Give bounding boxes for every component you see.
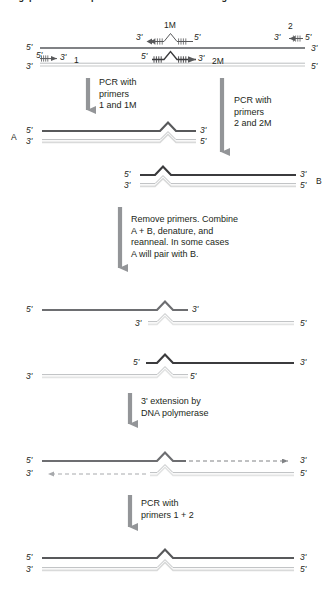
heteroduplex-1-bottom-strand [148, 314, 294, 325]
primer-1-left-5prime: 5' [36, 51, 42, 60]
heteroduplex-2-bottom-3prime: 3' [26, 372, 32, 381]
heteroduplex-1-top-5prime: 5' [26, 305, 32, 314]
primer-2-name: 2 [288, 22, 293, 31]
extended-bottom-5prime: 5' [300, 469, 306, 478]
fragment-B-top-3prime: 3' [300, 170, 306, 179]
extended-top-5prime: 5' [26, 456, 32, 465]
fragment-B-top-5prime: 5' [124, 170, 130, 179]
fragment-A-top-3prime: 3' [200, 126, 206, 135]
extended-bottom-3prime: 3' [26, 469, 32, 478]
fragment-B-bottom-3prime: 3' [124, 181, 130, 190]
template-top-right-3prime: 3' [311, 44, 317, 53]
template-top-left-5prime: 5' [26, 43, 32, 52]
primer-1-name: 1 [74, 56, 79, 65]
primer-2-glyph [289, 36, 303, 42]
fragment-A-tag: A [11, 133, 17, 142]
step-text-pcr-2-2M: PCR with primers 2 and 2M [234, 95, 272, 130]
final-top-5prime: 5' [26, 553, 32, 562]
fragment-A-bottom-5prime: 5' [200, 137, 206, 146]
primer-1-glyph [40, 55, 57, 61]
final-top-3prime: 3' [300, 553, 306, 562]
fragment-A-bottom-strand [42, 132, 196, 143]
fragment-B-top-strand [140, 167, 296, 176]
figure-canvas: Megaprimer / overlap-extension site-dire… [0, 0, 333, 593]
final-duplex-top-strand [42, 550, 294, 559]
step-text-combine: Remove primers. Combine A + B, denature,… [131, 214, 238, 260]
heteroduplex-1-top-strand [42, 302, 188, 311]
heteroduplex-2-top-5prime: 5' [133, 358, 139, 367]
heteroduplex-1-bottom-3prime: 3' [135, 319, 141, 328]
heteroduplex-2-top-strand [146, 355, 294, 364]
fragment-B-bottom-5prime: 5' [300, 181, 306, 190]
primer-1-right-3prime: 3' [60, 53, 66, 62]
primer-1M-glyph [147, 34, 194, 45]
heteroduplex-1-top-3prime: 3' [192, 305, 198, 314]
final-duplex-bottom-strand [42, 560, 294, 571]
fragment-B-bottom-strand [140, 176, 296, 187]
fragment-A-top-strand [42, 123, 196, 132]
heteroduplex-1-bottom-5prime: 5' [300, 319, 306, 328]
heteroduplex-2-top-3prime: 3' [300, 358, 306, 367]
heteroduplex-2-bottom-strand [42, 367, 188, 378]
primer-2M-name: 2M [212, 57, 224, 66]
primer-2M-right-3prime: 3' [198, 54, 204, 63]
step-text-pcr-1-2: PCR with primers 1 + 2 [141, 498, 194, 521]
primer-2-right-5prime: 5' [305, 33, 311, 42]
extended-duplex-bottom-strand [48, 465, 294, 476]
fragment-B-tag: B [316, 177, 322, 186]
fragment-A-top-5prime: 5' [26, 126, 32, 135]
step-text-extension: 3' extension by DNA polymerase [141, 396, 209, 419]
extended-duplex-top-strand [42, 453, 288, 462]
primer-2M-glyph [152, 52, 196, 63]
fragment-A-bottom-3prime: 3' [26, 137, 32, 146]
extended-top-3prime: 3' [300, 456, 306, 465]
primer-2M-left-5prime: 5' [141, 52, 147, 61]
primer-1M-left-3prime: 3' [136, 33, 142, 42]
primer-1M-name: 1M [164, 21, 176, 30]
primer-2-left-3prime: 3' [274, 33, 280, 42]
panel-template-bottom-strand [40, 63, 305, 66]
template-bottom-right-5prime: 5' [311, 62, 317, 71]
final-bottom-3prime: 3' [26, 565, 32, 574]
final-bottom-5prime: 5' [300, 565, 306, 574]
template-bottom-left-3prime: 3' [26, 62, 32, 71]
primer-1M-right-5prime: 5' [194, 33, 200, 42]
step-text-pcr-1-1M: PCR with primers 1 and 1M [99, 77, 137, 112]
heteroduplex-2-bottom-5prime: 5' [190, 372, 196, 381]
